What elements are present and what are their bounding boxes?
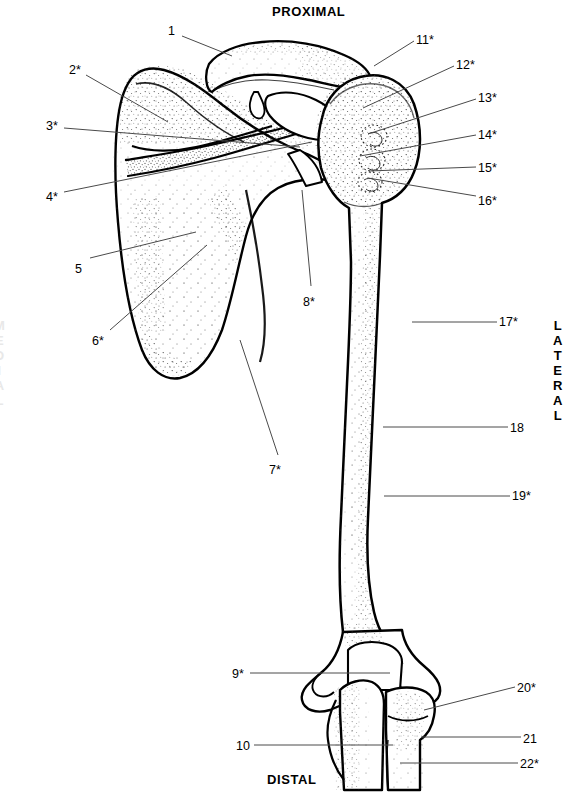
callout-label-5: 5 [75,262,82,276]
leader-line-8star [302,190,311,286]
orientation-label-lateral: LATERAL [553,318,562,423]
callout-label-12star: 12* [456,58,475,72]
callout-label-11star: 11* [416,33,434,47]
orientation-label-medial: MEDIAL [0,318,5,408]
callout-label-7star: 7* [269,463,281,477]
callout-label-14star: 14* [478,128,497,142]
anatomy-figure: PROXIMAL DISTAL LATERAL MEDIAL 12*3*4*56… [0,0,573,801]
callout-label-4star: 4* [46,190,58,204]
callout-label-10: 10 [236,739,250,753]
callout-label-20star: 20* [517,681,536,695]
callout-label-1: 1 [168,24,175,38]
callout-label-3star: 3* [46,119,58,133]
orientation-label-proximal: PROXIMAL [272,4,345,19]
callout-label-6star: 6* [92,334,104,348]
callout-label-21: 21 [523,732,537,746]
callout-label-8star: 8* [303,295,315,309]
callout-label-19star: 19* [512,489,531,503]
orientation-label-distal: DISTAL [267,772,317,787]
leader-line-1 [182,36,232,56]
callout-label-17star: 17* [499,315,518,329]
leader-line-11star [374,41,414,66]
callout-label-16star: 16* [478,194,497,208]
callout-label-18: 18 [510,421,524,435]
leader-line-7star [240,340,278,455]
callout-label-9star: 9* [232,667,244,681]
callout-label-15star: 15* [478,161,497,175]
callout-label-13star: 13* [478,91,497,105]
callout-label-2star: 2* [69,63,81,77]
skeleton-illustration [0,0,573,801]
callout-label-22star: 22* [520,757,539,771]
radius-outline [378,682,441,801]
